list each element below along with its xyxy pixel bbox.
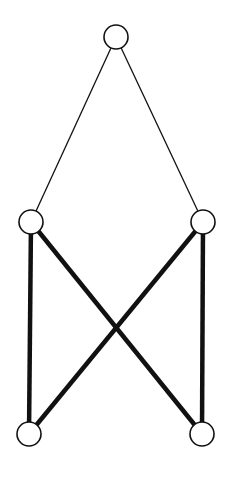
- node-bottom-left: [17, 422, 41, 446]
- edge-mid-right-bottom-right: [202, 222, 203, 434]
- graph-edges: [29, 37, 203, 434]
- node-top: [104, 25, 128, 49]
- node-mid-right: [191, 210, 215, 234]
- graph-nodes: [17, 25, 215, 446]
- node-mid-left: [19, 210, 43, 234]
- edge-mid-left-bottom-left: [29, 222, 31, 434]
- node-bottom-right: [190, 422, 214, 446]
- graph-diagram: [0, 0, 229, 478]
- edge-top-mid-left: [31, 37, 116, 222]
- edge-top-mid-right: [116, 37, 203, 222]
